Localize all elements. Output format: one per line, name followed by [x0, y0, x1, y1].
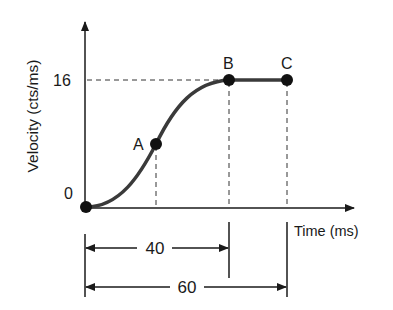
point-b-label: B: [223, 55, 234, 72]
point-b-dot: [223, 74, 235, 86]
origin-dot: [80, 201, 92, 213]
y-axis-label: Velocity (cts/ms): [24, 60, 41, 173]
point-a-label: A: [133, 136, 144, 153]
dim-40-label: 40: [146, 239, 165, 258]
point-c-dot: [281, 74, 293, 86]
x-axis-label: Time (ms): [294, 223, 359, 239]
point-c-label: C: [281, 55, 293, 72]
y-tick-0: 0: [64, 185, 73, 202]
y-tick-16: 16: [53, 72, 71, 89]
dim-60-label: 60: [178, 278, 197, 297]
velocity-profile-diagram: A B C 16 0 Velocity (cts/ms) Time (ms) 4…: [0, 0, 393, 310]
velocity-curve: [86, 80, 287, 207]
point-a-dot: [150, 138, 162, 150]
